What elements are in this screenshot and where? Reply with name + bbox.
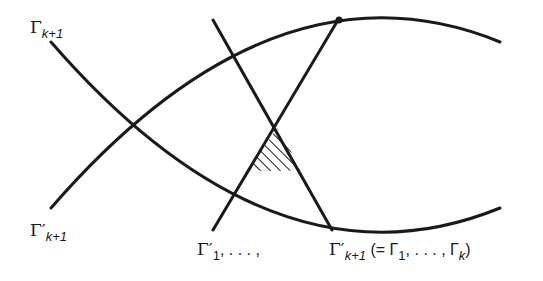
label-close: ) xyxy=(465,241,470,258)
label-ellipsis: , . . . , xyxy=(220,241,260,258)
label-base: Γ xyxy=(30,17,42,37)
label-open: (= Γ xyxy=(366,241,398,258)
endpoint-dot xyxy=(336,17,343,24)
label-mid: , . . . , Γ xyxy=(406,241,459,258)
label-base: Γ′ xyxy=(30,220,46,240)
label-gamma-k1: Γk+1 xyxy=(30,19,63,36)
label-subscript: k+1 xyxy=(345,248,366,263)
diagram-canvas xyxy=(0,0,543,281)
label-subscript: k xyxy=(459,248,466,263)
label-gamma-prime-1: Γ′1, . . . , xyxy=(197,241,260,258)
label-subscript: k+1 xyxy=(42,26,63,41)
label-subscript: k+1 xyxy=(46,229,67,244)
label-subscript: 1 xyxy=(213,248,220,263)
label-gamma-prime-k1-left: Γ′k+1 xyxy=(30,222,67,239)
label-base: Γ′ xyxy=(197,239,213,259)
label-subscript: 1 xyxy=(398,248,405,263)
label-base: Γ′ xyxy=(329,239,345,259)
label-gamma-prime-k1-right: Γ′k+1 (= Γ1, . . . , Γk) xyxy=(329,241,471,258)
